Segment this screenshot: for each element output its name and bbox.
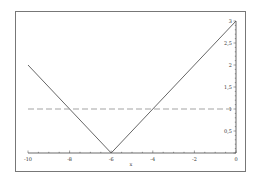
plot-canvas: -10-8-6-4-200,511,522,53 x: [0, 0, 255, 180]
x-tick-label: -2: [192, 156, 197, 162]
x-tick-label: 0: [234, 156, 237, 162]
y-tick-label: 0,5: [224, 128, 232, 134]
y-tick-label: 1,5: [224, 84, 232, 90]
plot-frame: [16, 12, 246, 172]
x-tick-label: -6: [109, 156, 114, 162]
x-tick-label: -4: [150, 156, 155, 162]
series-line: [28, 21, 236, 153]
axes: -10-8-6-4-200,511,522,53: [24, 18, 238, 162]
x-tick-label: -10: [24, 156, 32, 162]
y-tick-label: 2,5: [224, 40, 232, 46]
series-group: [28, 21, 236, 153]
y-tick-label: 2: [229, 62, 232, 68]
y-tick-label: 3: [229, 18, 232, 24]
x-axis-label: x: [130, 161, 133, 167]
x-tick-label: -8: [67, 156, 72, 162]
